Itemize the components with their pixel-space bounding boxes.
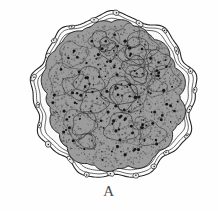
cell-nucleus	[138, 96, 141, 99]
capsule-nucleolus	[153, 166, 155, 168]
cell-nucleus	[115, 88, 117, 90]
cell-nucleus	[94, 45, 96, 47]
cell-nucleus	[62, 131, 65, 134]
cell-nucleus	[112, 119, 115, 122]
cell-nucleus	[105, 90, 108, 93]
cell-nucleus	[115, 85, 117, 87]
cell-nucleus	[169, 104, 172, 107]
cell-nucleus	[72, 139, 75, 142]
cell-nucleus	[118, 139, 121, 142]
cell-nucleus	[104, 65, 106, 67]
capsule-nucleolus	[176, 50, 178, 52]
cell-nucleus	[137, 102, 139, 104]
cell-nucleus	[119, 67, 121, 69]
capsule-nucleolus	[138, 23, 140, 25]
cell-nucleus	[139, 104, 141, 106]
cell-nucleus	[162, 89, 165, 92]
capsule-nucleolus	[165, 152, 167, 154]
cell-nucleus	[78, 71, 81, 74]
figure-panel: A	[0, 0, 218, 211]
capsule-nucleolus	[53, 39, 55, 41]
cell-nucleus	[153, 110, 156, 113]
cell-nucleus	[91, 91, 93, 93]
cell-nucleus	[65, 118, 68, 121]
cell-nucleus	[98, 76, 101, 79]
cell-nucleus	[116, 45, 119, 48]
capsule-nucleolus	[116, 12, 118, 14]
capsule-nucleolus	[189, 109, 191, 111]
cell-nucleus	[128, 83, 131, 86]
cell-nucleus	[88, 83, 90, 85]
cell-nucleus	[118, 128, 120, 130]
cell-nucleus	[131, 131, 134, 134]
cell-nucleus	[150, 73, 152, 75]
cell-nucleus	[114, 64, 116, 66]
cell-nucleus	[121, 95, 123, 97]
cell-nucleus	[85, 95, 86, 96]
capsule-nucleolus	[37, 104, 39, 106]
cell-nucleus	[96, 98, 98, 100]
cell-nucleus	[120, 151, 122, 153]
cell-nucleus	[53, 97, 55, 99]
cell-nucleus	[170, 121, 172, 123]
cell-nucleus	[86, 62, 88, 64]
cell-nucleus	[73, 49, 76, 52]
cell-nucleus	[76, 92, 78, 94]
capsule-nucleolus	[39, 124, 41, 126]
cell-nucleus	[128, 47, 131, 50]
cell-nucleus	[71, 91, 74, 94]
cell-nucleus	[120, 115, 123, 118]
cell-nucleus	[100, 68, 102, 70]
cell-nucleus	[114, 34, 116, 36]
cell-nucleus	[111, 123, 113, 125]
cell-nucleus	[137, 148, 140, 151]
cell-nucleus	[51, 101, 54, 104]
cell-nucleus	[60, 68, 63, 71]
cell-nucleus	[103, 102, 105, 104]
cell-nucleus	[116, 54, 118, 56]
cell-nucleus	[148, 103, 150, 105]
specimen-illustration	[0, 0, 218, 211]
cell-nucleus	[109, 60, 112, 63]
cell-nucleus	[151, 111, 153, 113]
cell-nucleus	[132, 149, 134, 151]
cell-nucleus	[76, 81, 78, 83]
figure-label: A	[0, 183, 218, 200]
capsule-nucleolus	[186, 135, 188, 137]
cell-nucleus	[101, 94, 103, 96]
cell-nucleus	[113, 66, 115, 68]
cell-nucleus	[134, 76, 135, 77]
cell-nucleus	[68, 126, 71, 129]
cell-nucleus	[79, 118, 81, 120]
cell-nucleus	[114, 105, 117, 108]
cell-nucleus	[165, 103, 168, 106]
cell-nucleus	[134, 70, 136, 72]
cell-nucleus	[165, 66, 167, 68]
cell-nucleus	[143, 140, 145, 142]
capsule-nucleolus	[33, 76, 35, 78]
cell-nucleus	[94, 55, 96, 57]
cell-nucleus	[165, 59, 167, 61]
cell-nucleus	[148, 91, 150, 93]
cell-nucleus	[105, 49, 107, 51]
capsule-nucleolus	[164, 30, 166, 32]
cell-nucleus	[106, 61, 108, 63]
cell-nucleus	[97, 64, 99, 66]
cell-nucleus	[141, 123, 144, 126]
cell-nucleus	[101, 159, 103, 161]
cell-nucleus	[105, 76, 107, 78]
cell-nucleus	[143, 119, 145, 121]
cell-nucleus	[161, 114, 164, 117]
capsule-nucleolus	[194, 89, 196, 91]
cell-nucleus	[67, 57, 69, 59]
cell-nucleus	[107, 111, 110, 114]
cell-nucleus	[157, 71, 160, 74]
cell-nucleus	[76, 56, 79, 59]
cell-nucleus	[128, 111, 130, 113]
cell-nucleus	[91, 105, 93, 107]
cell-nucleus	[111, 150, 113, 152]
cell-nucleus	[141, 48, 143, 50]
cell-nucleus	[101, 47, 104, 50]
cell-nucleus	[123, 119, 125, 121]
cell-nucleus	[123, 153, 126, 156]
